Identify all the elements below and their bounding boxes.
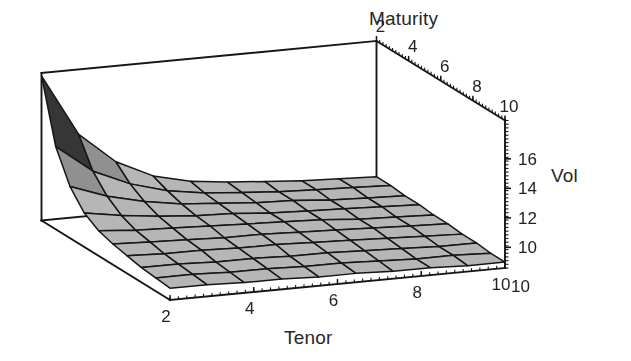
- tenor-tick-label: 8: [413, 283, 422, 302]
- vol-tick-label: 14: [518, 179, 537, 198]
- surface-mesh: [42, 76, 506, 288]
- maturity-tick-label: 10: [500, 97, 519, 116]
- axis-title-vol: Vol: [551, 165, 578, 187]
- vol-tick-label: 16: [518, 150, 537, 169]
- axis-title-tenor: Tenor: [284, 327, 333, 349]
- tenor-tick-label: 10: [492, 275, 511, 294]
- box-edge-top-back: [42, 41, 377, 73]
- maturity-tick-label: 6: [440, 57, 449, 76]
- vol-tick-label: 12: [518, 209, 537, 228]
- maturity-tick-label: 8: [472, 77, 481, 96]
- surface-plot-figure: 2468102468101614121010: [0, 0, 631, 361]
- tenor-tick-label: 4: [245, 299, 254, 318]
- tenor-tick-label: 6: [329, 291, 338, 310]
- axis-title-maturity: Maturity: [369, 8, 438, 30]
- tenor-tick-label: 2: [161, 307, 170, 326]
- maturity-tick-label: 4: [408, 37, 417, 56]
- vol-tick-label: 10: [518, 238, 537, 257]
- tenor-corner-label: 10: [511, 277, 530, 296]
